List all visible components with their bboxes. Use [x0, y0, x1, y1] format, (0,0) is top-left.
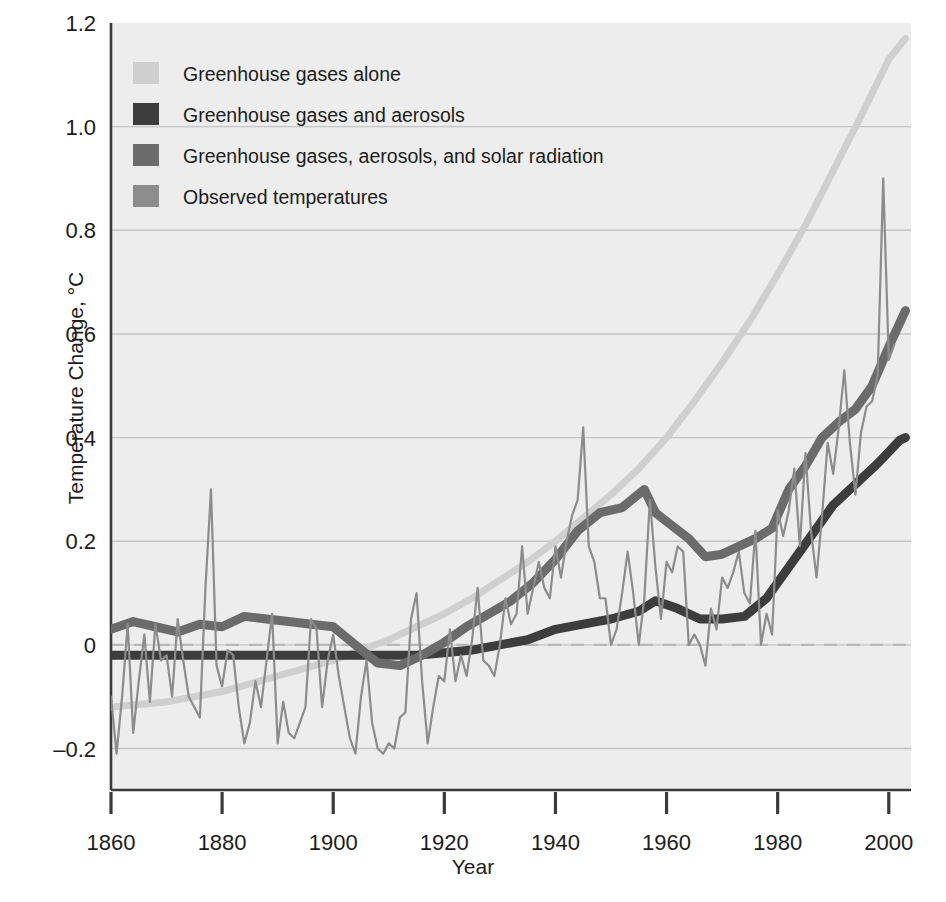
x-axis-ticks: [111, 792, 889, 814]
y-tick-label: –0.2: [53, 737, 96, 762]
x-tick-label: 1860: [87, 830, 136, 855]
legend-swatch: [133, 62, 159, 84]
x-axis-label: Year: [0, 855, 946, 879]
y-tick-label: 0: [84, 633, 96, 658]
climate-temperature-chart: 1.21.00.80.60.40.20–0.2 1860188019001920…: [0, 0, 946, 902]
y-tick-label: 1.2: [65, 11, 96, 36]
y-axis-label-holder: Temperature Change, °C: [14, 180, 54, 600]
x-tick-label: 1900: [309, 830, 358, 855]
x-tick-label: 1960: [642, 830, 691, 855]
x-tick-label: 2000: [864, 830, 913, 855]
legend-label: Greenhouse gases alone: [183, 63, 401, 85]
legend-swatch: [133, 144, 159, 166]
x-axis-tick-labels: 18601880190019201940196019802000: [87, 830, 914, 855]
legend-label: Observed temperatures: [183, 186, 388, 208]
x-tick-label: 1940: [531, 830, 580, 855]
x-tick-label: 1980: [753, 830, 802, 855]
chart-svg: 1.21.00.80.60.40.20–0.2 1860188019001920…: [0, 0, 946, 902]
legend-swatch: [133, 103, 159, 125]
x-tick-label: 1880: [198, 830, 247, 855]
x-tick-label: 1920: [420, 830, 469, 855]
legend-swatch: [133, 185, 159, 207]
legend-label: Greenhouse gases and aerosols: [183, 104, 465, 126]
plot-background: [111, 23, 911, 790]
y-axis-label: Temperature Change, °C: [64, 238, 88, 538]
chart-canvas: 1.21.00.80.60.40.20–0.2 1860188019001920…: [0, 0, 946, 902]
y-tick-label: 1.0: [65, 115, 96, 140]
legend-label: Greenhouse gases, aerosols, and solar ra…: [183, 145, 604, 167]
